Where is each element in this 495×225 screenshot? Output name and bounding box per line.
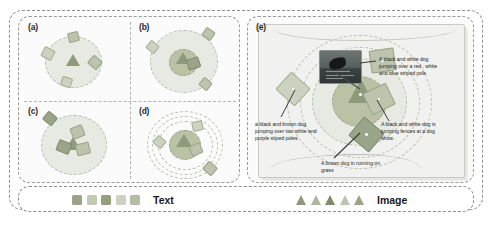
legend-square-swatch [101,195,111,205]
legend-square-swatch [72,195,82,205]
legend-square-swatch [87,195,97,205]
marker-dot [291,87,295,91]
panel-e-label: (e) [256,22,266,32]
marker-dot [365,133,369,137]
annotation-right-bottom: A black and white dog is jumping fences … [381,121,439,143]
panel-b-label: (b) [139,22,149,32]
panel-c: (c) [19,101,130,185]
panels-abcd-group: (a) (b) (c) [18,16,240,183]
panel-b: (b) [130,17,241,101]
dog-photo-thumbnail[interactable] [319,50,362,84]
legend-square-swatch [130,195,140,205]
panel-d: (d) [130,101,241,185]
marker-dot [377,97,380,100]
panel-a: (a) [19,17,130,101]
legend-text-swatches [72,195,140,205]
thumbnail-bar [326,78,343,79]
legend-triangle-swatch [296,195,306,205]
legend-triangle-swatch [354,195,364,205]
panel-a-image-marker [66,54,80,66]
thumbnail-bar [326,71,350,72]
legend-triangle-swatch [340,195,350,205]
legend-group-image: Image [296,187,407,213]
annotation-right-top: A black and white dog jumping over a red… [379,56,445,78]
panel-c-label: (c) [28,106,38,116]
annotation-bottom-middle: A brown dog in running on grass [321,160,381,174]
legend-group-text: Text [72,187,174,213]
legend-triangle-swatch [311,195,321,205]
figure-root: (a) (b) (c) [0,0,495,225]
legend-square-swatch [116,195,126,205]
legend-bar: Text Image [18,186,474,212]
panel-a-label: (a) [28,22,38,32]
legend-triangle-swatch [325,195,335,205]
annotation-left-bottom: a black and brown dog jumping over two w… [255,121,317,143]
legend-image-swatches [296,195,364,205]
thumbnail-bar [326,75,354,76]
legend-label-image: Image [377,194,407,206]
panel-d-label: (d) [139,106,149,116]
legend-label-text: Text [153,194,174,206]
panel-e-group: (e) [247,16,474,183]
